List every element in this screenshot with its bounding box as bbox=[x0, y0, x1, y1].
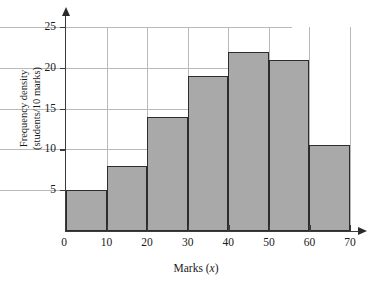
x-axis-title-text: Marks bbox=[173, 262, 202, 274]
histogram-figure: 25 20 15 10 5 0 10 20 30 40 50 60 70 Mar… bbox=[0, 0, 392, 286]
x-tick-20 bbox=[147, 225, 148, 231]
y-axis-line bbox=[65, 14, 66, 232]
x-tick-40 bbox=[228, 225, 229, 231]
x-axis-line bbox=[66, 231, 360, 232]
y-tick-10 bbox=[60, 149, 66, 150]
x-axis-title-paren-open: ( bbox=[203, 262, 210, 274]
x-tick-label-30: 30 bbox=[173, 236, 203, 248]
bars-container bbox=[66, 27, 350, 231]
x-axis-arrow-icon bbox=[358, 227, 367, 235]
histogram-bar-0-10 bbox=[66, 190, 107, 231]
x-tick-50 bbox=[269, 225, 270, 231]
x-tick-label-20: 20 bbox=[132, 236, 162, 248]
y-axis-title: Frequency density (students/10 marks) bbox=[18, 19, 43, 199]
x-tick-label-50: 50 bbox=[254, 236, 284, 248]
x-tick-label-40: 40 bbox=[213, 236, 243, 248]
y-axis-title-line2: (students/10 marks) bbox=[30, 19, 43, 199]
histogram-bar-10-20 bbox=[107, 166, 148, 231]
histogram-bar-40-50 bbox=[228, 52, 269, 232]
y-tick-15 bbox=[60, 109, 66, 110]
x-axis-title: Marks (x) bbox=[0, 262, 392, 274]
histogram-bar-30-40 bbox=[188, 76, 229, 231]
histogram-bar-50-60 bbox=[269, 60, 310, 231]
x-axis-title-paren-close: ) bbox=[215, 262, 219, 274]
x-tick-30 bbox=[188, 225, 189, 231]
x-tick-label-0: 0 bbox=[49, 236, 79, 248]
histogram-bar-20-30 bbox=[147, 117, 188, 231]
x-tick-label-70: 70 bbox=[335, 236, 365, 248]
y-tick-5 bbox=[60, 190, 66, 191]
histogram-bar-60-70 bbox=[309, 145, 350, 231]
y-tick-20 bbox=[60, 68, 66, 69]
x-tick-60 bbox=[309, 225, 310, 231]
x-tick-10 bbox=[107, 225, 108, 231]
x-tick-label-10: 10 bbox=[92, 236, 122, 248]
gridline-x-70 bbox=[350, 27, 351, 231]
x-tick-70 bbox=[350, 225, 351, 231]
x-tick-label-60: 60 bbox=[294, 236, 324, 248]
y-axis-title-line1: Frequency density bbox=[18, 19, 31, 199]
y-axis-arrow-icon bbox=[62, 7, 70, 16]
y-tick-25 bbox=[60, 27, 66, 28]
